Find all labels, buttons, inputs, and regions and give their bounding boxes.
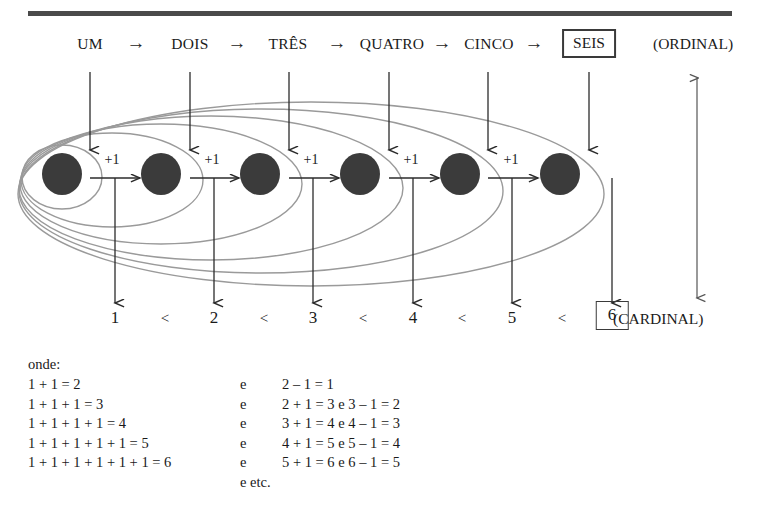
node-dot-6 — [540, 153, 580, 195]
ellipse-4 — [19, 116, 403, 260]
ordinal-word-quatro: QUATRO — [360, 33, 425, 55]
cardinal-relation-4: < — [458, 306, 466, 330]
cardinal-relation-1: < — [161, 306, 169, 330]
increment-label-3: +1 — [304, 152, 319, 168]
ordinal-word-dois: DOIS — [171, 33, 208, 55]
ordinal-row: UM → DOIS → TRÊS → QUATRO → CINCO → SEIS… — [0, 33, 760, 59]
notes-heading: onde: — [28, 355, 728, 374]
note-line-5-conj: e — [240, 453, 282, 473]
cardinal-row: 1 < 2 < 3 < 4 < 5 < 6 (CARDINAL) — [0, 306, 760, 334]
cardinal-relation-3: < — [359, 306, 367, 330]
cardinal-number-1: 1 — [111, 306, 120, 330]
ordinal-cardinal-figure: UM → DOIS → TRÊS → QUATRO → CINCO → SEIS… — [0, 0, 760, 523]
increment-label-4: +1 — [404, 152, 419, 168]
node-to-cardinal-arrows — [115, 178, 612, 303]
ordinal-word-um: UM — [77, 33, 103, 55]
ellipse-6 — [18, 102, 604, 286]
node-dot-1 — [42, 153, 82, 195]
note-line-4-left: 1 + 1 + 1 + 1 + 1 = 5 — [28, 434, 240, 454]
note-line-4-right: 4 + 1 = 5 e 5 – 1 = 4 — [282, 434, 400, 454]
note-line-3-conj: e — [240, 414, 282, 434]
ordinal-arrow-icon-1: → — [127, 32, 146, 54]
note-line-1-left: 1 + 1 = 2 — [28, 375, 240, 395]
ordinal-word-tres: TRÊS — [268, 33, 307, 55]
note-line-1-right: 2 – 1 = 1 — [282, 375, 334, 395]
top-horizontal-rule — [28, 11, 732, 16]
node-dot-3 — [240, 153, 280, 195]
note-line-3-left: 1 + 1 + 1 + 1 = 4 — [28, 414, 240, 434]
note-line-4: 1 + 1 + 1 + 1 + 1 = 5 e 4 + 1 = 5 e 5 – … — [28, 434, 728, 454]
node-dot-4 — [340, 153, 380, 195]
cardinal-axis-label: (CARDINAL) — [613, 307, 703, 331]
ordinal-arrow-icon-4: → — [433, 32, 452, 54]
ordinal-to-node-arrows — [90, 72, 589, 150]
ellipse-3 — [20, 124, 302, 244]
cardinal-relation-2: < — [260, 306, 268, 330]
note-line-5-left: 1 + 1 + 1 + 1 + 1 + 1 = 6 — [28, 453, 240, 473]
ordinal-arrow-icon-5: → — [525, 32, 544, 54]
note-line-2-conj: e — [240, 395, 282, 415]
nested-ellipses-group — [18, 102, 604, 286]
node-dot-2 — [141, 153, 181, 195]
increment-label-5: +1 — [504, 152, 519, 168]
notes-block: onde: 1 + 1 = 2 e 2 – 1 = 1 1 + 1 + 1 = … — [28, 355, 728, 492]
note-etc: e etc. — [240, 473, 728, 493]
note-line-5: 1 + 1 + 1 + 1 + 1 + 1 = 6 e 5 + 1 = 6 e … — [28, 453, 728, 473]
node-dot-5 — [440, 153, 480, 195]
cardinal-relation-5: < — [558, 306, 566, 330]
note-line-1-conj: e — [240, 375, 282, 395]
ellipse-2 — [21, 133, 203, 227]
ordinal-axis-label: (ORDINAL) — [653, 33, 733, 55]
increment-label-2: +1 — [205, 152, 220, 168]
cardinal-number-4: 4 — [409, 306, 418, 330]
ordinal-arrow-icon-2: → — [228, 32, 247, 54]
cardinal-number-3: 3 — [309, 306, 318, 330]
cardinal-number-5: 5 — [508, 306, 517, 330]
note-line-3: 1 + 1 + 1 + 1 = 4 e 3 + 1 = 4 e 4 – 1 = … — [28, 414, 728, 434]
ellipse-5 — [19, 109, 503, 273]
note-line-3-right: 3 + 1 = 4 e 4 – 1 = 3 — [282, 414, 400, 434]
note-line-5-right: 5 + 1 = 6 e 6 – 1 = 5 — [282, 453, 400, 473]
ordinal-word-cinco: CINCO — [464, 33, 514, 55]
ordinal-arrow-icon-3: → — [328, 32, 347, 54]
note-line-4-conj: e — [240, 434, 282, 454]
increment-label-1: +1 — [105, 152, 120, 168]
note-line-2-right: 2 + 1 = 3 e 3 – 1 = 2 — [282, 395, 400, 415]
ellipse-1 — [22, 145, 102, 209]
note-line-2: 1 + 1 + 1 = 3 e 2 + 1 = 3 e 3 – 1 = 2 — [28, 395, 728, 415]
ordinal-word-seis-boxed: SEIS — [562, 29, 616, 58]
note-line-2-left: 1 + 1 + 1 = 3 — [28, 395, 240, 415]
note-line-1: 1 + 1 = 2 e 2 – 1 = 1 — [28, 375, 728, 395]
cardinal-number-2: 2 — [210, 306, 219, 330]
